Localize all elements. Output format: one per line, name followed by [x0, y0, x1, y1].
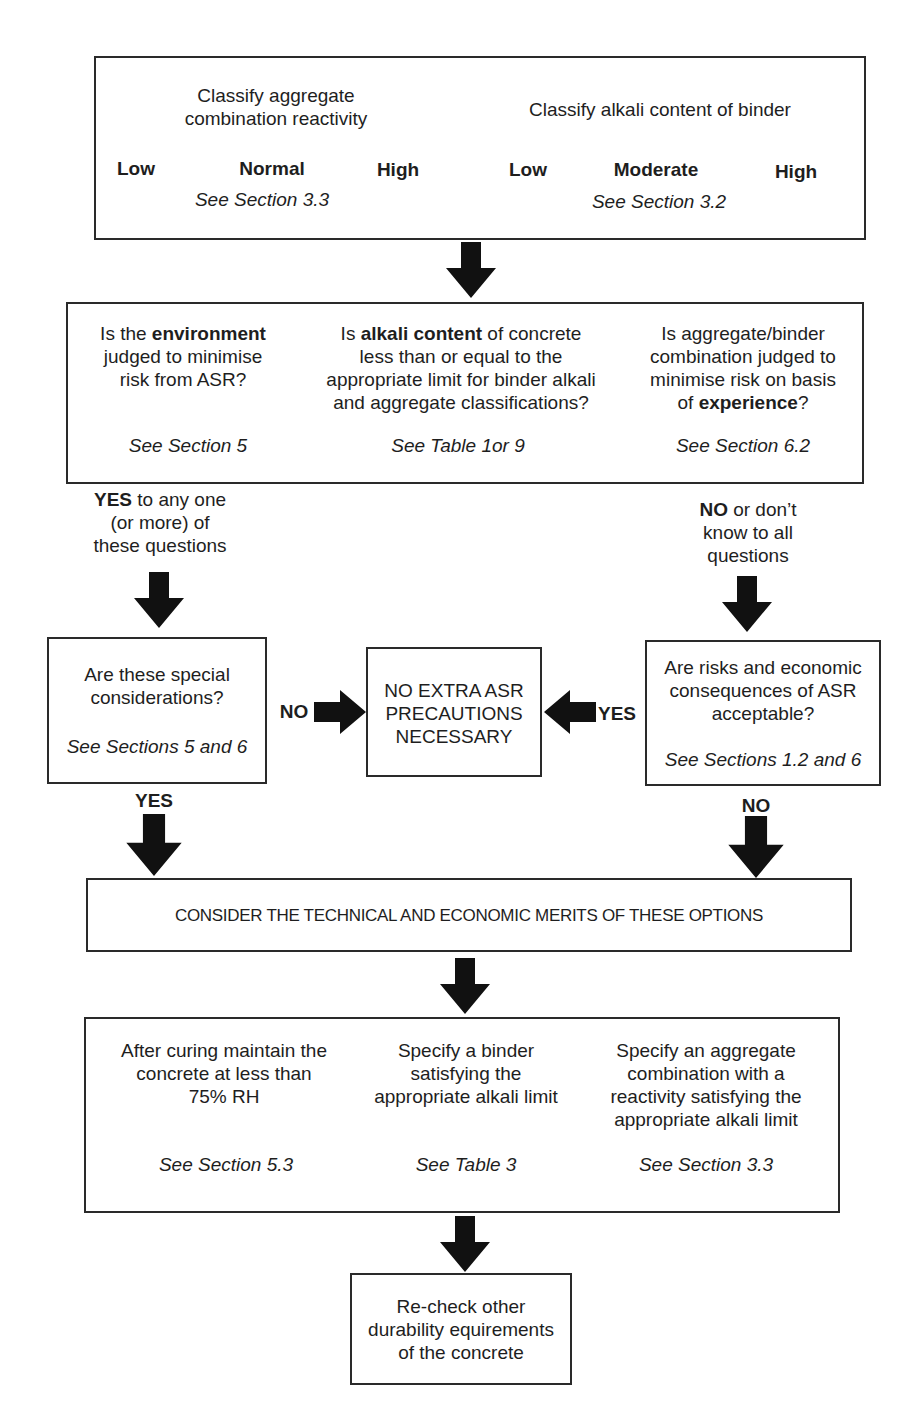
arrow-down-icon — [728, 816, 784, 878]
recheck-line1: Re-check other — [352, 1295, 570, 1318]
branch-yes-rest: to any one — [132, 489, 226, 510]
q1-line: judged to minimise — [78, 345, 288, 368]
recheck-line2: durability equirements — [352, 1318, 570, 1341]
risks-yes-label: YES — [594, 702, 640, 725]
q1-bold: environment — [152, 323, 266, 344]
q3-bold: experience — [699, 392, 798, 413]
arrow-down-icon — [722, 576, 772, 632]
arrow-down-icon — [446, 242, 496, 298]
q2-line: less than or equal to the — [286, 345, 636, 368]
aggregate-level-normal: Normal — [222, 157, 322, 180]
aggregate-title-line2: combination reactivity — [156, 107, 396, 130]
recheck-box: Re-check other durability equirements of… — [350, 1273, 572, 1385]
q3-line: Is aggregate/binder — [628, 322, 858, 345]
aggregate-title-line1: Classify aggregate — [156, 84, 396, 107]
no-extra-line3: NECESSARY — [368, 725, 540, 748]
question-environment-ref: See Section 5 — [98, 434, 278, 457]
option3-line: Specify an aggregate — [586, 1039, 826, 1062]
option3-line: appropriate alkali limit — [586, 1108, 826, 1131]
aggregate-level-high: High — [358, 158, 438, 181]
consider-options-box: CONSIDER THE TECHNICAL AND ECONOMIC MERI… — [86, 878, 852, 952]
arrow-down-icon — [126, 814, 182, 876]
q3-post: ? — [798, 392, 809, 413]
aggregate-title: Classify aggregate combination reactivit… — [156, 84, 396, 130]
risks-line1: Are risks and economic — [647, 656, 879, 679]
option-specify-aggregate: Specify an aggregate combination with a … — [586, 1039, 826, 1131]
branch-yes-label: YES to any one (or more) of these questi… — [60, 488, 260, 557]
recheck-line3: of the concrete — [352, 1341, 570, 1364]
option1-line: concrete at less than — [100, 1062, 348, 1085]
binder-ref: See Section 3.2 — [564, 190, 754, 213]
special-yes-label: YES — [124, 789, 184, 812]
binder-title: Classify alkali content of binder — [500, 98, 820, 121]
option3-line: combination with a — [586, 1062, 826, 1085]
q2-line: appropriate limit for binder alkali — [286, 368, 636, 391]
question-environment: Is the environment judged to minimise ri… — [78, 322, 288, 391]
arrow-right-icon — [314, 690, 366, 734]
special-no-label: NO — [274, 700, 314, 723]
no-extra-text: NO EXTRA ASR PRECAUTIONS NECESSARY — [368, 679, 540, 748]
option-specify-binder: Specify a binder satisfying the appropri… — [356, 1039, 576, 1108]
option-maintain-rh-ref: See Section 5.3 — [126, 1153, 326, 1176]
risks-acceptable-box: Are risks and economic consequences of A… — [645, 640, 881, 786]
aggregate-ref: See Section 3.3 — [172, 188, 352, 211]
special-question: Are these special considerations? — [49, 663, 265, 709]
question-alkali-content: Is alkali content of concrete less than … — [286, 322, 636, 414]
branch-no-bold: NO — [699, 499, 728, 520]
branch-no-line2: know to all — [658, 521, 838, 544]
consider-text: CONSIDER THE TECHNICAL AND ECONOMIC MERI… — [88, 906, 850, 926]
binder-level-low: Low — [492, 158, 564, 181]
no-extra-precautions-box: NO EXTRA ASR PRECAUTIONS NECESSARY — [366, 647, 542, 777]
option3-line: reactivity satisfying the — [586, 1085, 826, 1108]
arrow-down-icon — [134, 572, 184, 628]
risks-question: Are risks and economic consequences of A… — [647, 656, 879, 725]
special-line1: Are these special — [49, 663, 265, 686]
q3-line: minimise risk on basis — [628, 368, 858, 391]
options-box: After curing maintain the concrete at le… — [84, 1017, 840, 1213]
risks-line3: acceptable? — [647, 702, 879, 725]
special-ref: See Sections 5 and 6 — [49, 735, 265, 758]
branch-no-label: NO or don’t know to all questions — [658, 498, 838, 567]
q2-pre: Is — [341, 323, 361, 344]
special-considerations-box: Are these special considerations? See Se… — [47, 637, 267, 784]
no-extra-line2: PRECAUTIONS — [368, 702, 540, 725]
aggregate-level-low: Low — [100, 157, 172, 180]
option1-line: 75% RH — [100, 1085, 348, 1108]
risks-ref: See Sections 1.2 and 6 — [647, 748, 879, 771]
q1-line: risk from ASR? — [78, 368, 288, 391]
option-maintain-rh: After curing maintain the concrete at le… — [100, 1039, 348, 1108]
q3-line: combination judged to — [628, 345, 858, 368]
classification-box: Classify aggregate combination reactivit… — [94, 56, 866, 240]
questions-box: Is the environment judged to minimise ri… — [66, 302, 864, 484]
binder-level-moderate: Moderate — [596, 158, 716, 181]
special-line2: considerations? — [49, 686, 265, 709]
question-experience-ref: See Section 6.2 — [638, 434, 848, 457]
risks-no-label: NO — [726, 794, 786, 817]
q2-line: and aggregate classifications? — [286, 391, 636, 414]
arrow-down-icon — [440, 1216, 490, 1272]
q2-post: of concrete — [482, 323, 581, 344]
q3-pre: of — [678, 392, 699, 413]
q2-bold: alkali content — [361, 323, 482, 344]
option2-line: Specify a binder — [356, 1039, 576, 1062]
no-extra-line1: NO EXTRA ASR — [368, 679, 540, 702]
option2-line: appropriate alkali limit — [356, 1085, 576, 1108]
branch-no-line3: questions — [658, 544, 838, 567]
option2-line: satisfying the — [356, 1062, 576, 1085]
branch-yes-line3: these questions — [60, 534, 260, 557]
arrow-down-icon — [440, 958, 490, 1014]
risks-line2: consequences of ASR — [647, 679, 879, 702]
option-specify-binder-ref: See Table 3 — [376, 1153, 556, 1176]
question-experience: Is aggregate/binder combination judged t… — [628, 322, 858, 414]
binder-level-high: High — [760, 160, 832, 183]
branch-yes-line2: (or more) of — [60, 511, 260, 534]
question-alkali-content-ref: See Table 1or 9 — [358, 434, 558, 457]
recheck-text: Re-check other durability equirements of… — [352, 1295, 570, 1364]
option1-line: After curing maintain the — [100, 1039, 348, 1062]
q1-pre: Is the — [100, 323, 152, 344]
option-specify-aggregate-ref: See Section 3.3 — [606, 1153, 806, 1176]
branch-yes-bold: YES — [94, 489, 132, 510]
branch-no-rest: or don’t — [728, 499, 797, 520]
arrow-left-icon — [544, 690, 596, 734]
